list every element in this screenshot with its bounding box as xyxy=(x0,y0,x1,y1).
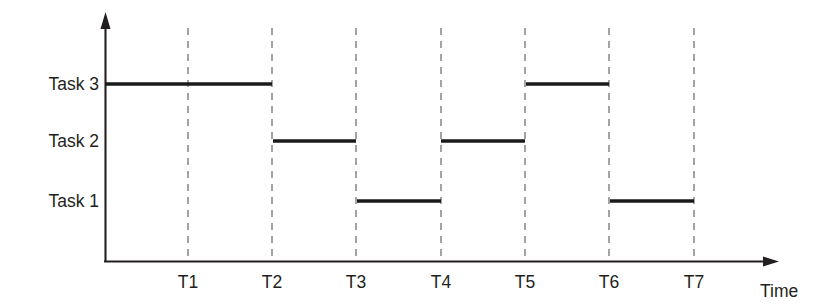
tick-label-t5: T5 xyxy=(515,272,535,292)
y-axis-arrowhead xyxy=(101,12,111,29)
row-label-task-2: Task 2 xyxy=(48,131,99,151)
tick-label-t1: T1 xyxy=(178,272,198,292)
chart-canvas: Task 3 Task 2 Task 1 T1 T2 T3 T4 T5 T6 T… xyxy=(0,0,837,305)
x-axis-title: Time xyxy=(760,281,798,301)
tick-label-t3: T3 xyxy=(346,272,366,292)
y-axis xyxy=(101,12,111,262)
row-labels: Task 3 Task 2 Task 1 xyxy=(48,74,99,211)
gridlines xyxy=(188,28,694,261)
row-label-task-3: Task 3 xyxy=(48,74,99,94)
x-axis-arrowhead xyxy=(763,257,779,267)
x-tick-labels: T1 T2 T3 T4 T5 T6 T7 xyxy=(178,272,704,292)
task-schedule-timeline-figure: Task 3 Task 2 Task 1 T1 T2 T3 T4 T5 T6 T… xyxy=(0,0,837,305)
tick-label-t4: T4 xyxy=(431,272,452,292)
tick-label-t7: T7 xyxy=(684,272,704,292)
row-label-task-1: Task 1 xyxy=(48,191,99,211)
tick-label-t2: T2 xyxy=(262,272,282,292)
x-axis xyxy=(104,257,779,267)
tick-label-t6: T6 xyxy=(599,272,619,292)
task-segments xyxy=(105,84,694,201)
